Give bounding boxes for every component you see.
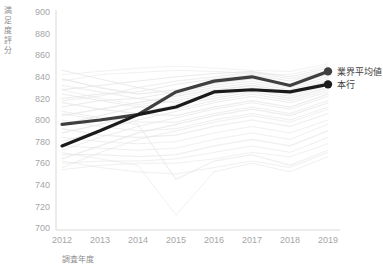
satisfaction-score-line-chart: 満足度評分 900880860840820800780760740720700 … [0,0,383,272]
x-tick-2012: 2012 [52,235,72,245]
chart-canvas: 900880860840820800780760740720700 201220… [0,0,383,272]
x-tick-2013: 2013 [90,235,110,245]
background-series-line [62,64,328,75]
y-tick-880: 880 [35,29,50,39]
y-axis-title: 満足度評分 [1,6,14,56]
x-tick-2019: 2019 [318,235,338,245]
y-axis-tick-labels: 900880860840820800780760740720700 [35,7,50,233]
x-axis-tick-labels: 20122013201420152016201720182019 [52,235,338,245]
y-tick-800: 800 [35,115,50,125]
x-axis-title: 調査年度 [62,254,94,264]
y-tick-740: 740 [35,180,50,190]
y-tick-760: 760 [35,158,50,168]
background-series-line [62,114,328,138]
legend-label-本行: 本行 [337,79,355,90]
x-tick-2014: 2014 [128,235,148,245]
y-tick-720: 720 [35,202,50,212]
y-tick-840: 840 [35,72,50,82]
background-series-line [62,152,328,215]
y-tick-780: 780 [35,137,50,147]
end-marker-本行 [324,80,332,88]
legend: 業界平均値本行 [337,66,382,90]
x-tick-2016: 2016 [204,235,224,245]
end-marker-業界平均値 [324,67,332,75]
y-tick-700: 700 [35,223,50,233]
background-series-line [62,144,328,170]
x-tick-2015: 2015 [166,235,186,245]
legend-label-業界平均値: 業界平均値 [337,66,382,77]
x-tick-2017: 2017 [242,235,262,245]
y-tick-860: 860 [35,50,50,60]
y-tick-900: 900 [35,7,50,17]
y-tick-820: 820 [35,94,50,104]
x-tick-2018: 2018 [280,235,300,245]
